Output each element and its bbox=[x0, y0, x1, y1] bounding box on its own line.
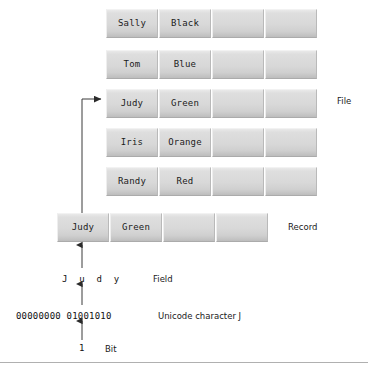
unicode-bits: 00000000 01001010 bbox=[16, 311, 112, 321]
unicode-character-label: Unicode character J bbox=[158, 311, 241, 321]
file-cell-empty-1 bbox=[212, 50, 264, 79]
file-cell-first-name: Judy bbox=[106, 89, 158, 118]
record-label: Record bbox=[288, 222, 317, 232]
file-cell-color: Orange bbox=[159, 128, 211, 157]
file-cell-color: Blue bbox=[159, 50, 211, 79]
file-cell-color: Red bbox=[159, 167, 211, 196]
field-label: Field bbox=[153, 274, 173, 284]
file-cell-color: Green bbox=[159, 89, 211, 118]
record-row: Judy Green bbox=[57, 213, 268, 242]
bit-value: 1 bbox=[79, 343, 85, 353]
record-to-file-connector bbox=[82, 99, 101, 213]
record-cell-color: Green bbox=[110, 213, 162, 242]
file-cell-empty-1 bbox=[212, 167, 264, 196]
file-cell-first-name: Iris bbox=[106, 128, 158, 157]
file-cell-empty-1 bbox=[212, 9, 264, 38]
file-cell-first-name: Tom bbox=[106, 50, 158, 79]
file-cell-empty-1 bbox=[212, 89, 264, 118]
bit-label: Bit bbox=[105, 344, 117, 354]
record-cell-empty-1 bbox=[163, 213, 215, 242]
file-label: File bbox=[337, 96, 351, 106]
field-characters: J u d y bbox=[62, 274, 122, 284]
table-row: Randy Red bbox=[106, 167, 317, 196]
table-row-highlighted: Judy Green bbox=[106, 89, 317, 118]
file-cell-empty-2 bbox=[265, 89, 317, 118]
table-row: Tom Blue bbox=[106, 50, 317, 79]
file-cell-empty-2 bbox=[265, 50, 317, 79]
bottom-divider bbox=[0, 362, 368, 363]
data-hierarchy-diagram: Sally Black Tom Blue Judy Green Iris Ora… bbox=[0, 0, 368, 370]
table-row: Iris Orange bbox=[106, 128, 317, 157]
file-cell-color: Black bbox=[159, 9, 211, 38]
file-cell-empty-1 bbox=[212, 128, 264, 157]
file-cell-first-name: Randy bbox=[106, 167, 158, 196]
file-cell-empty-2 bbox=[265, 167, 317, 196]
file-cell-first-name: Sally bbox=[106, 9, 158, 38]
table-row: Sally Black bbox=[106, 9, 317, 38]
file-cell-empty-2 bbox=[265, 128, 317, 157]
file-cell-empty-2 bbox=[265, 9, 317, 38]
record-cell-first-name: Judy bbox=[57, 213, 109, 242]
record-cell-empty-2 bbox=[216, 213, 268, 242]
